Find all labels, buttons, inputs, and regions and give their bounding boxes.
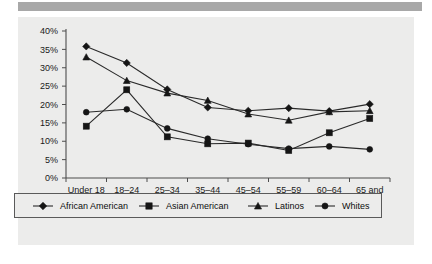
top-banner-bar bbox=[18, 2, 422, 11]
legend-label: Asian American bbox=[166, 201, 229, 211]
data-point-triangle bbox=[123, 77, 130, 83]
y-tick-label: 25% bbox=[40, 81, 58, 91]
legend-label: Whites bbox=[342, 201, 370, 211]
data-point-diamond bbox=[366, 101, 373, 108]
data-point-diamond bbox=[123, 59, 130, 66]
data-point-diamond bbox=[39, 202, 47, 210]
legend-label: Latinos bbox=[275, 201, 305, 211]
axis-lines bbox=[66, 29, 390, 182]
data-point-circle bbox=[245, 141, 251, 147]
data-point-circle bbox=[286, 146, 292, 152]
data-point-square bbox=[124, 87, 130, 93]
legend-label: African American bbox=[60, 201, 128, 211]
y-tick-label: 40% bbox=[40, 26, 58, 36]
series-line bbox=[86, 46, 370, 111]
chart-legend: African AmericanAsian AmericanLatinosWhi… bbox=[14, 193, 382, 218]
data-point-circle bbox=[322, 203, 328, 209]
legend-item-asian-american[interactable]: Asian American bbox=[139, 201, 229, 211]
chart-screenshot: 0%5%10%15%20%25%30%35%40% Under 1818–242… bbox=[0, 0, 432, 264]
legend-item-latinos[interactable]: Latinos bbox=[248, 201, 305, 211]
legend-item-african-american[interactable]: African American bbox=[33, 201, 128, 211]
data-point-square bbox=[146, 203, 152, 209]
y-tick-label: 0% bbox=[45, 173, 58, 183]
data-point-square bbox=[83, 123, 89, 129]
data-point-square bbox=[164, 134, 170, 140]
y-tick-label: 20% bbox=[40, 100, 58, 110]
data-point-triangle bbox=[83, 54, 90, 60]
data-point-square bbox=[326, 130, 332, 136]
legend-item-whites[interactable]: Whites bbox=[315, 201, 370, 211]
data-point-diamond bbox=[204, 104, 211, 111]
data-point-diamond bbox=[83, 43, 90, 50]
y-tick-label: 30% bbox=[40, 63, 58, 73]
y-tick-label: 5% bbox=[45, 155, 58, 165]
data-point-circle bbox=[164, 125, 170, 131]
data-point-circle bbox=[205, 136, 211, 142]
y-tick-label: 35% bbox=[40, 45, 58, 55]
data-point-circle bbox=[326, 143, 332, 149]
data-point-circle bbox=[367, 146, 373, 152]
data-point-square bbox=[367, 115, 373, 121]
legend-content: African AmericanAsian AmericanLatinosWhi… bbox=[15, 194, 381, 217]
y-tick-label: 15% bbox=[40, 118, 58, 128]
data-point-circle bbox=[124, 106, 130, 112]
series-layer bbox=[83, 43, 374, 154]
y-tick-label: 10% bbox=[40, 136, 58, 146]
data-point-circle bbox=[83, 109, 89, 115]
y-axis-tick-group: 0%5%10%15%20%25%30%35%40% bbox=[40, 26, 66, 183]
data-point-diamond bbox=[285, 105, 292, 112]
